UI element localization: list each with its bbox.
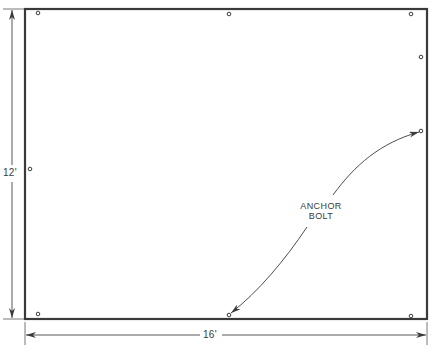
anchor-bolt-callout: ANCHOR BOLT <box>296 201 346 221</box>
anchor-bolt-icon <box>28 167 32 171</box>
height-dimension-label: 12' <box>3 167 17 179</box>
leader-line-lower <box>231 227 307 313</box>
anchor-bolt-icon <box>409 12 413 16</box>
anchor-bolts <box>28 11 423 318</box>
callout-line-2: BOLT <box>296 211 346 221</box>
foundation-outline <box>25 9 427 319</box>
foundation-plan-drawing <box>0 0 432 354</box>
anchor-bolt-icon <box>409 314 413 318</box>
width-dimension <box>25 322 427 345</box>
height-dimension <box>3 9 24 319</box>
anchor-bolt-icon <box>36 312 40 316</box>
width-dimension-label: 16' <box>202 330 218 340</box>
anchor-bolt-icon <box>419 55 423 59</box>
anchor-bolt-icon <box>36 11 40 15</box>
anchor-bolt-icon <box>227 12 231 16</box>
leader-line-upper <box>333 132 419 195</box>
anchor-bolt-icon <box>227 313 231 317</box>
callout-line-1: ANCHOR <box>296 201 346 211</box>
anchor-bolt-icon <box>419 129 423 133</box>
